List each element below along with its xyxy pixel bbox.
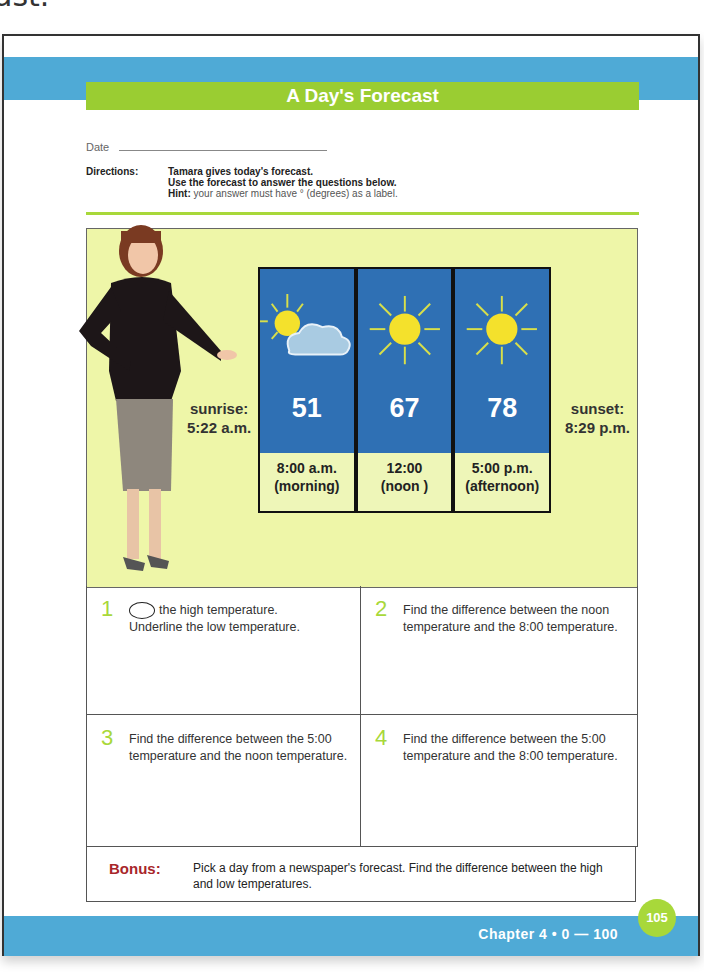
date-field[interactable] bbox=[119, 140, 327, 151]
bonus-question[interactable]: Bonus: Pick a day from a newspaper's for… bbox=[86, 846, 636, 902]
question-3[interactable]: 3 Find the difference between the 5:00 t… bbox=[87, 715, 361, 846]
temperature: 78 bbox=[455, 393, 549, 424]
directions-label: Directions: bbox=[86, 166, 168, 177]
question-text: Find the difference between the noon tem… bbox=[403, 602, 623, 636]
bonus-text: Pick a day from a newspaper's forecast. … bbox=[193, 860, 623, 892]
circle-symbol-icon bbox=[129, 602, 155, 619]
forecast-column-afternoon: 78 5:00 p.m. (afternoon) bbox=[455, 269, 549, 511]
question-number: 2 bbox=[375, 596, 387, 622]
period-label: (afternoon) bbox=[455, 477, 549, 495]
question-4[interactable]: 4 Find the difference between the 5:00 t… bbox=[361, 715, 637, 846]
sunrise-time: 5:22 a.m. bbox=[187, 418, 251, 437]
temperature: 51 bbox=[260, 393, 354, 424]
worksheet-page: A Day's Forecast Date Directions: Tamara… bbox=[2, 34, 700, 956]
time-label: 5:00 p.m. bbox=[455, 459, 549, 477]
divider bbox=[86, 212, 639, 215]
period-label: (noon ) bbox=[358, 477, 452, 495]
time-label: 12:00 bbox=[358, 459, 452, 477]
sunset-label: sunset: bbox=[565, 399, 630, 418]
question-1[interactable]: 1 the high temperature. Underline the lo… bbox=[87, 586, 361, 715]
forecast-column-morning: 51 8:00 a.m. (morning) bbox=[260, 269, 354, 511]
directions: Directions: Tamara gives today's forecas… bbox=[86, 166, 398, 199]
forecast-panel: sunrise: 5:22 a.m. 51 bbox=[86, 228, 638, 588]
footer-band: Chapter 4 • 0 — 100 bbox=[4, 916, 698, 956]
date-label: Date bbox=[86, 141, 109, 153]
question-grid: 1 the high temperature. Underline the lo… bbox=[86, 586, 638, 847]
sunset-time: 8:29 p.m. bbox=[565, 418, 630, 437]
page-number-badge: 105 bbox=[638, 899, 676, 937]
temperature: 67 bbox=[358, 393, 452, 424]
bonus-label: Bonus: bbox=[109, 860, 161, 877]
sun-icon bbox=[455, 289, 549, 379]
question-number: 3 bbox=[101, 725, 113, 751]
question-text-2: Underline the low temperature. bbox=[129, 620, 300, 634]
forecast-board: 51 8:00 a.m. (morning) bbox=[258, 267, 551, 513]
question-text: the high temperature. bbox=[159, 603, 278, 617]
chapter-label: Chapter 4 • 0 — 100 bbox=[478, 926, 618, 942]
page-title: A Day's Forecast bbox=[86, 82, 639, 110]
sunrise-info: sunrise: 5:22 a.m. bbox=[187, 399, 251, 437]
question-text: Find the difference between the 5:00 tem… bbox=[129, 731, 349, 765]
directions-line-1: Tamara gives today's forecast. bbox=[168, 166, 313, 177]
question-text: Find the difference between the 5:00 tem… bbox=[403, 731, 623, 765]
forecast-column-noon: 67 12:00 (noon ) bbox=[358, 269, 452, 511]
hint-text: your answer must have ° (degrees) as a l… bbox=[191, 188, 398, 199]
hint-label: Hint: bbox=[168, 188, 191, 199]
partly-cloudy-icon bbox=[260, 289, 354, 379]
directions-line-2: Use the forecast to answer the questions… bbox=[168, 177, 397, 188]
sun-icon bbox=[358, 289, 452, 379]
date-row: Date bbox=[86, 140, 327, 153]
sunrise-label: sunrise: bbox=[187, 399, 251, 418]
time-label: 8:00 a.m. bbox=[260, 459, 354, 477]
cut-off-text: ast. bbox=[0, 0, 49, 13]
question-number: 1 bbox=[101, 596, 113, 622]
question-2[interactable]: 2 Find the difference between the noon t… bbox=[361, 586, 637, 715]
question-number: 4 bbox=[375, 725, 387, 751]
sunset-info: sunset: 8:29 p.m. bbox=[565, 399, 630, 437]
period-label: (morning) bbox=[260, 477, 354, 495]
